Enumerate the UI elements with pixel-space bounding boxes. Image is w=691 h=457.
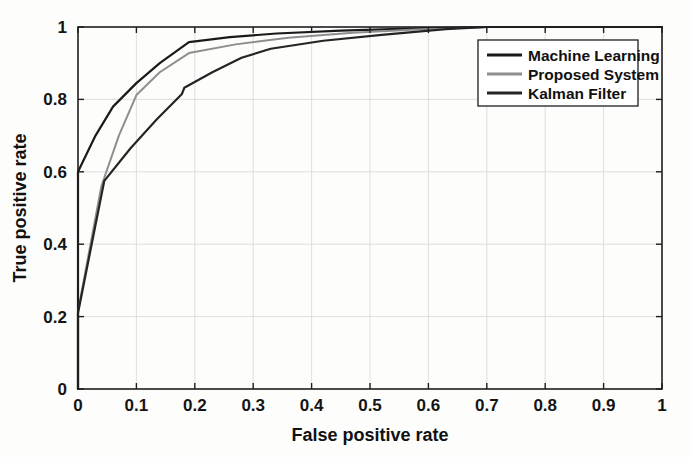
roc-figure: 00.10.20.30.40.50.60.70.80.9100.20.40.60…: [0, 0, 691, 457]
x-tick-label: 0.2: [183, 396, 207, 415]
x-tick-label: 0: [73, 396, 82, 415]
y-tick-label: 1: [58, 18, 67, 37]
legend-label-machine-learning: Machine Learning: [528, 47, 660, 64]
legend-label-proposed-system: Proposed System: [528, 66, 659, 83]
x-tick-label: 0.5: [358, 396, 382, 415]
y-tick-label: 0.2: [43, 308, 67, 327]
x-tick-label: 0.8: [533, 396, 557, 415]
y-tick-label: 0.6: [43, 163, 67, 182]
x-tick-label: 0.4: [300, 396, 324, 415]
x-tick-label: 0.7: [475, 396, 499, 415]
legend-label-kalman-filter: Kalman Filter: [528, 85, 626, 102]
roc-chart-canvas: 00.10.20.30.40.50.60.70.80.9100.20.40.60…: [0, 0, 691, 457]
y-tick-label: 0.8: [43, 90, 67, 109]
x-tick-label: 0.1: [125, 396, 149, 415]
y-tick-label: 0.4: [43, 235, 67, 254]
x-tick-label: 0.9: [592, 396, 616, 415]
y-axis-title: True positive rate: [10, 133, 30, 282]
x-tick-label: 1: [657, 396, 666, 415]
x-tick-label: 0.3: [241, 396, 265, 415]
x-tick-label: 0.6: [417, 396, 441, 415]
chart-legend: Machine LearningProposed SystemKalman Fi…: [478, 40, 660, 106]
x-axis-title: False positive rate: [291, 425, 448, 445]
y-tick-label: 0: [58, 380, 67, 399]
